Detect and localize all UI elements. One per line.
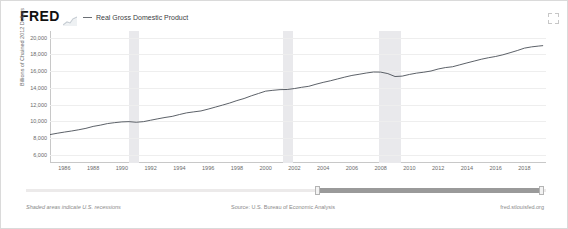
- legend-marker-icon: [83, 17, 92, 18]
- y-axis-tick-label: 10,000: [30, 118, 47, 124]
- x-axis-tick-label: 1986: [58, 165, 70, 171]
- range-slider-left-handle[interactable]: [315, 186, 320, 195]
- x-axis-tick-label: 2016: [490, 165, 502, 171]
- y-axis-tick-label: 16,000: [30, 68, 47, 74]
- x-axis: 1986198819901992199419961998200020022004…: [50, 165, 546, 177]
- x-axis-tick-label: 1994: [173, 165, 185, 171]
- x-axis-tick-label: 1988: [87, 165, 99, 171]
- y-axis-tick-label: 12,000: [30, 102, 47, 108]
- x-axis-tick-label: 2014: [461, 165, 473, 171]
- chart-header: FRED Real Gross Domestic Product: [1, 1, 568, 29]
- y-axis-tick-label: 20,000: [30, 35, 47, 41]
- series-layer: [50, 31, 546, 163]
- x-axis-tick-label: 1992: [145, 165, 157, 171]
- x-axis-tick-label: 2004: [317, 165, 329, 171]
- chart-footer: Shaded areas indicate U.S. recessions So…: [1, 202, 568, 218]
- x-axis-tick-label: 1996: [202, 165, 214, 171]
- recession-note: Shaded areas indicate U.S. recessions: [26, 204, 121, 210]
- fred-url-label[interactable]: fred.stlouisfed.org: [500, 204, 544, 210]
- x-axis-tick-label: 2010: [403, 165, 415, 171]
- sparkline-icon: [63, 12, 77, 22]
- y-axis-title: Billions of Chained 2012 Dollars: [19, 0, 25, 86]
- data-series-line: [50, 46, 543, 135]
- range-slider-fill[interactable]: [317, 188, 541, 193]
- fred-chart-widget: FRED Real Gross Domestic Product Billion…: [0, 0, 568, 229]
- x-axis-tick-label: 2008: [375, 165, 387, 171]
- plot-area: [50, 31, 546, 163]
- y-axis: Billions of Chained 2012 Dollars 20,0001…: [1, 31, 50, 163]
- x-axis-tick-label: 2006: [346, 165, 358, 171]
- y-axis-tick-label: 14,000: [30, 85, 47, 91]
- y-axis-tick-label: 18,000: [30, 51, 47, 57]
- range-slider-right-handle[interactable]: [539, 186, 544, 195]
- fred-logo[interactable]: FRED: [20, 9, 60, 23]
- x-axis-tick-label: 2000: [260, 165, 272, 171]
- source-label: Source: U.S. Bureau of Economic Analysis: [231, 204, 335, 210]
- x-axis-tick-label: 2002: [288, 165, 300, 171]
- chart-legend[interactable]: Real Gross Domestic Product: [83, 11, 188, 23]
- x-axis-tick-label: 2012: [432, 165, 444, 171]
- x-axis-tick-label: 1990: [116, 165, 128, 171]
- date-range-slider[interactable]: [26, 186, 546, 195]
- x-axis-tick-label: 2018: [518, 165, 530, 171]
- y-axis-tick-label: 6,000: [33, 152, 47, 158]
- y-axis-tick-label: 8,000: [33, 135, 47, 141]
- expand-fullscreen-icon[interactable]: [548, 10, 559, 21]
- x-axis-tick-label: 1998: [231, 165, 243, 171]
- legend-item-label: Real Gross Domestic Product: [96, 13, 188, 22]
